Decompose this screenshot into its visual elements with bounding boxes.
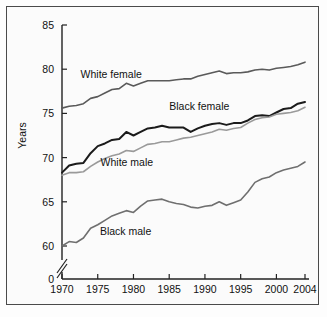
x-ticklabel-2000: 2000 [265,283,289,295]
series-label-black-male: Black male [100,225,152,237]
y-ticklabel-60: 60 [42,240,54,252]
y-ticklabel-75: 75 [42,107,54,119]
y-axis-title: Years [16,122,28,148]
plot-area: 8580757065600197019751980198519901995200… [0,0,327,317]
series-label-white-male: White male [101,156,154,168]
y-ticklabel-65: 65 [42,196,54,208]
x-ticklabel-1980: 1980 [122,283,146,295]
line-chart: 8580757065600197019751980198519901995200… [0,0,327,317]
series-line-black-male [62,162,305,246]
x-ticklabel-2004: 2004 [293,283,317,295]
x-ticklabel-1970: 1970 [50,283,74,295]
x-ticklabel-1975: 1975 [86,283,110,295]
x-ticklabel-1985: 1985 [158,283,182,295]
x-ticklabel-1990: 1990 [193,283,217,295]
y-ticklabel-70: 70 [42,152,54,164]
x-ticklabel-1995: 1995 [229,283,253,295]
series-label-black-female: Black female [169,100,229,112]
y-ticklabel-85: 85 [42,19,54,31]
series-label-white-female: White female [81,68,142,80]
y-ticklabel-80: 80 [42,63,54,75]
series-line-white-male [62,107,305,175]
figure-container: 8580757065600197019751980198519901995200… [0,0,327,317]
